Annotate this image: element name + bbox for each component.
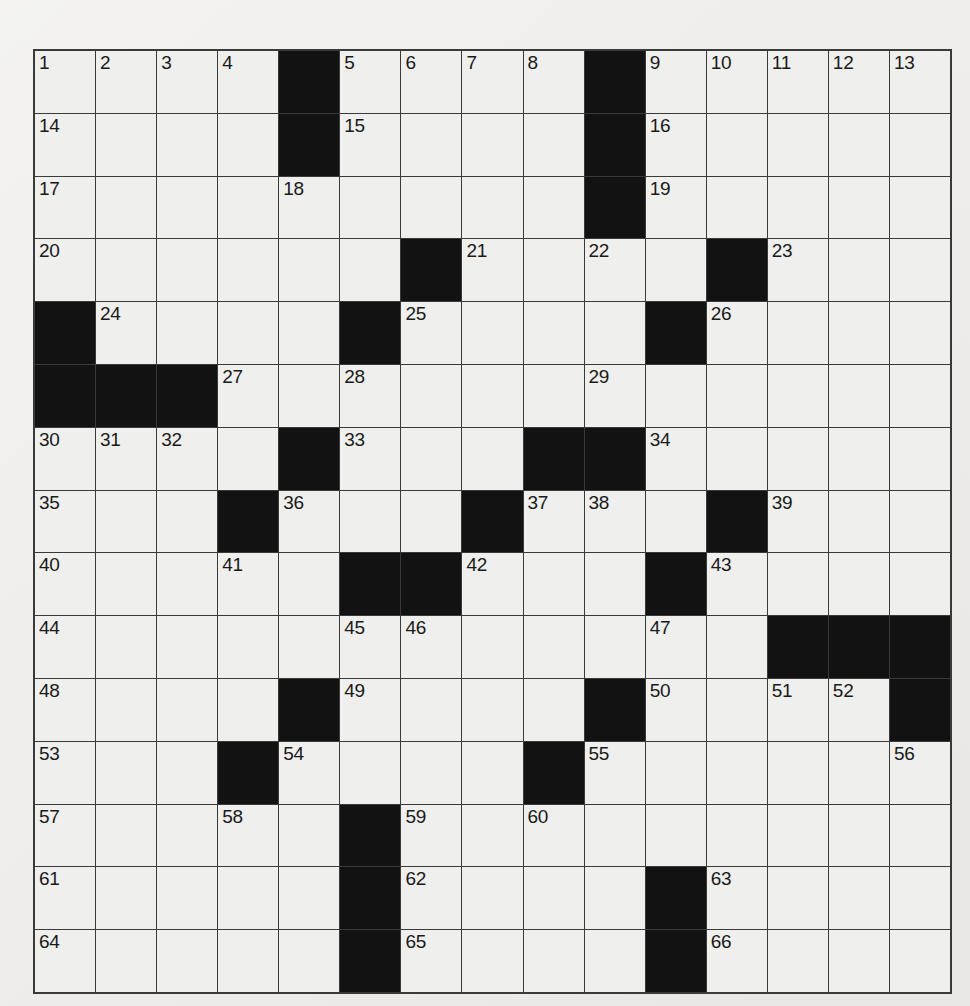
crossword-cell[interactable]: 19 — [646, 177, 706, 239]
crossword-cell[interactable] — [768, 428, 828, 490]
crossword-cell[interactable] — [585, 616, 645, 678]
crossword-cell[interactable] — [646, 365, 706, 427]
crossword-cell[interactable] — [585, 930, 645, 992]
crossword-cell[interactable] — [707, 428, 767, 490]
crossword-cell[interactable]: 61 — [35, 867, 95, 929]
crossword-cell[interactable]: 54 — [279, 742, 339, 804]
crossword-cell[interactable]: 14 — [35, 114, 95, 176]
crossword-cell[interactable] — [707, 616, 767, 678]
crossword-cell[interactable] — [279, 365, 339, 427]
crossword-cell[interactable] — [768, 177, 828, 239]
crossword-cell[interactable] — [890, 239, 950, 301]
crossword-cell[interactable] — [340, 491, 400, 553]
crossword-cell[interactable] — [829, 742, 889, 804]
crossword-cell[interactable] — [768, 867, 828, 929]
crossword-cell[interactable]: 57 — [35, 805, 95, 867]
crossword-cell[interactable] — [524, 930, 584, 992]
crossword-cell[interactable] — [279, 239, 339, 301]
crossword-cell[interactable]: 17 — [35, 177, 95, 239]
crossword-cell[interactable] — [218, 867, 278, 929]
crossword-cell[interactable] — [462, 302, 522, 364]
crossword-cell[interactable] — [890, 805, 950, 867]
crossword-cell[interactable]: 21 — [462, 239, 522, 301]
crossword-cell[interactable] — [707, 365, 767, 427]
crossword-cell[interactable]: 44 — [35, 616, 95, 678]
crossword-cell[interactable] — [890, 302, 950, 364]
crossword-cell[interactable] — [524, 302, 584, 364]
crossword-cell[interactable]: 15 — [340, 114, 400, 176]
crossword-cell[interactable]: 37 — [524, 491, 584, 553]
crossword-cell[interactable]: 45 — [340, 616, 400, 678]
crossword-cell[interactable]: 7 — [462, 51, 522, 113]
crossword-cell[interactable] — [401, 679, 461, 741]
crossword-cell[interactable]: 39 — [768, 491, 828, 553]
crossword-cell[interactable] — [768, 302, 828, 364]
crossword-cell[interactable] — [829, 805, 889, 867]
crossword-cell[interactable] — [585, 805, 645, 867]
crossword-cell[interactable] — [462, 616, 522, 678]
crossword-cell[interactable]: 27 — [218, 365, 278, 427]
crossword-cell[interactable] — [768, 553, 828, 615]
crossword-cell[interactable] — [401, 491, 461, 553]
crossword-cell[interactable] — [279, 930, 339, 992]
crossword-cell[interactable]: 16 — [646, 114, 706, 176]
crossword-cell[interactable]: 31 — [96, 428, 156, 490]
crossword-cell[interactable]: 43 — [707, 553, 767, 615]
crossword-grid[interactable]: 1234567891011121314151617181920212223242… — [33, 49, 952, 994]
crossword-cell[interactable]: 40 — [35, 553, 95, 615]
crossword-cell[interactable] — [707, 679, 767, 741]
crossword-cell[interactable]: 50 — [646, 679, 706, 741]
crossword-cell[interactable] — [646, 742, 706, 804]
crossword-cell[interactable] — [96, 239, 156, 301]
crossword-cell[interactable] — [524, 616, 584, 678]
crossword-cell[interactable] — [340, 177, 400, 239]
crossword-cell[interactable] — [462, 930, 522, 992]
crossword-cell[interactable] — [890, 930, 950, 992]
crossword-cell[interactable]: 38 — [585, 491, 645, 553]
crossword-cell[interactable] — [829, 239, 889, 301]
crossword-cell[interactable]: 58 — [218, 805, 278, 867]
crossword-cell[interactable] — [157, 177, 217, 239]
crossword-cell[interactable] — [890, 428, 950, 490]
crossword-cell[interactable] — [96, 177, 156, 239]
crossword-cell[interactable] — [524, 679, 584, 741]
crossword-cell[interactable]: 36 — [279, 491, 339, 553]
crossword-cell[interactable] — [890, 365, 950, 427]
crossword-cell[interactable]: 1 — [35, 51, 95, 113]
crossword-cell[interactable] — [401, 742, 461, 804]
crossword-cell[interactable]: 12 — [829, 51, 889, 113]
crossword-cell[interactable]: 10 — [707, 51, 767, 113]
crossword-cell[interactable] — [279, 867, 339, 929]
crossword-cell[interactable] — [96, 742, 156, 804]
crossword-cell[interactable] — [157, 867, 217, 929]
crossword-cell[interactable] — [646, 805, 706, 867]
crossword-cell[interactable]: 59 — [401, 805, 461, 867]
crossword-cell[interactable]: 52 — [829, 679, 889, 741]
crossword-cell[interactable]: 32 — [157, 428, 217, 490]
crossword-cell[interactable] — [279, 553, 339, 615]
crossword-cell[interactable] — [279, 616, 339, 678]
crossword-cell[interactable] — [157, 491, 217, 553]
crossword-cell[interactable] — [157, 616, 217, 678]
crossword-cell[interactable] — [646, 491, 706, 553]
crossword-cell[interactable]: 34 — [646, 428, 706, 490]
crossword-cell[interactable]: 30 — [35, 428, 95, 490]
crossword-cell[interactable]: 65 — [401, 930, 461, 992]
crossword-cell[interactable] — [462, 365, 522, 427]
crossword-cell[interactable] — [707, 177, 767, 239]
crossword-cell[interactable] — [157, 679, 217, 741]
crossword-cell[interactable]: 35 — [35, 491, 95, 553]
crossword-cell[interactable] — [340, 239, 400, 301]
crossword-cell[interactable] — [401, 177, 461, 239]
crossword-cell[interactable] — [768, 805, 828, 867]
crossword-cell[interactable] — [829, 491, 889, 553]
crossword-cell[interactable]: 64 — [35, 930, 95, 992]
crossword-cell[interactable] — [401, 365, 461, 427]
crossword-cell[interactable] — [768, 930, 828, 992]
crossword-cell[interactable]: 56 — [890, 742, 950, 804]
crossword-cell[interactable] — [218, 239, 278, 301]
crossword-cell[interactable]: 20 — [35, 239, 95, 301]
crossword-cell[interactable] — [829, 867, 889, 929]
crossword-cell[interactable] — [890, 867, 950, 929]
crossword-cell[interactable]: 11 — [768, 51, 828, 113]
